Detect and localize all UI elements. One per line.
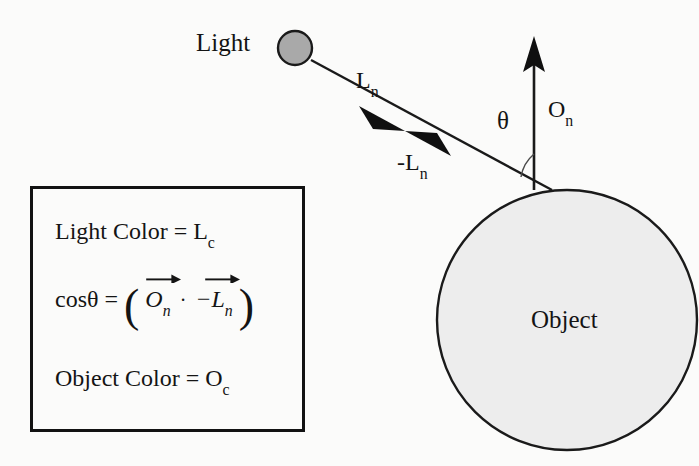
light-vector-symbol: L (356, 67, 371, 93)
normal-term-subscript: n (163, 302, 171, 319)
normal-vector-subscript: n (565, 112, 573, 129)
neg-light-term-subscript: n (225, 302, 233, 319)
theta-label: θ (497, 108, 509, 133)
neg-light-vector-subscript: n (420, 165, 428, 182)
light-color-text: Light Color = L (55, 218, 208, 244)
object-color-text: Object Color = O (55, 365, 223, 391)
close-paren: ) (239, 280, 254, 331)
normal-vector-term: On (145, 286, 170, 317)
vector-arrow-over-L (204, 271, 240, 283)
open-paren: ( (124, 280, 139, 331)
neg-light-vector-term: −Ln (195, 286, 232, 317)
light-color-subscript: c (208, 234, 215, 251)
object-label: Object (531, 307, 598, 332)
normal-term-symbol: O (145, 286, 162, 312)
neg-light-term-symbol: −L (195, 286, 225, 312)
equation-light-color: Light Color = Lc (55, 218, 215, 249)
equation-box: Light Color = Lc cosθ = ( On · (30, 186, 305, 432)
equation-list: Light Color = Lc cosθ = ( On · (33, 189, 302, 429)
cos-theta-lhs: cosθ = (55, 286, 118, 312)
light-vector-subscript: n (371, 83, 379, 100)
equation-cos-theta: cosθ = ( On · −Ln ) (55, 286, 254, 317)
light-label: Light (196, 30, 250, 55)
neg-light-vector-symbol: -L (397, 149, 420, 175)
light-source-circle (278, 31, 312, 65)
neg-light-vector-label: -Ln (397, 150, 428, 179)
normal-vector-label: On (548, 97, 573, 126)
equation-object-color: Object Color = Oc (55, 365, 230, 396)
vector-arrow-over-O (145, 271, 181, 283)
light-vector-label: Ln (356, 68, 379, 97)
dot-product-operator: · (177, 289, 190, 311)
neg-light-arrowhead (359, 106, 405, 131)
object-color-subscript: c (223, 381, 230, 398)
diagram-canvas: Light Ln -Ln θ On Object Light Color = L… (0, 0, 699, 466)
light-ray-line (311, 60, 552, 190)
normal-vector-symbol: O (548, 96, 565, 122)
